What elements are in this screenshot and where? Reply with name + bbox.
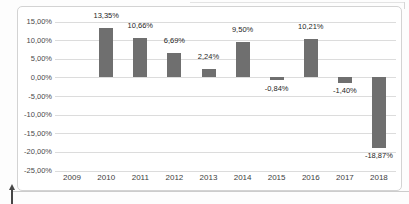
x-axis-label: 2015 — [260, 173, 294, 183]
text-cursor-mark — [11, 189, 13, 204]
x-axis-label: 2012 — [157, 173, 191, 183]
x-axis-label: 2011 — [123, 173, 157, 183]
bar — [372, 77, 386, 147]
y-axis-label: -25,00% — [14, 166, 52, 175]
gridline — [55, 115, 396, 116]
bar — [338, 77, 352, 82]
data-label: 6,69% — [150, 37, 198, 45]
data-label: 10,21% — [287, 23, 335, 31]
data-label: -0,84% — [253, 85, 301, 93]
gridline — [55, 96, 396, 97]
x-axis-label: 2010 — [89, 173, 123, 183]
data-label: 10,66% — [116, 22, 164, 30]
bar — [270, 77, 284, 80]
x-axis-label: 2016 — [294, 173, 328, 183]
document-canvas: 15,00%10,00%5,00%0,00%-5,00%-10,00%-15,0… — [0, 0, 409, 204]
bar — [99, 28, 113, 78]
y-axis-label: 15,00% — [14, 17, 52, 26]
data-label: -1,40% — [321, 87, 369, 95]
bar — [167, 53, 181, 78]
gridline — [55, 133, 396, 134]
y-axis-label: -15,00% — [14, 129, 52, 138]
y-axis-label: -10,00% — [14, 110, 52, 119]
bar — [133, 38, 147, 78]
cursor-arrowhead-icon — [9, 184, 15, 190]
data-label: 13,35% — [82, 12, 130, 20]
y-axis-label: 10,00% — [14, 36, 52, 45]
x-axis-label: 2018 — [362, 173, 396, 183]
y-axis-label: 0,00% — [14, 73, 52, 82]
gridline — [55, 22, 396, 23]
y-axis-label: 5,00% — [14, 54, 52, 63]
gridline — [55, 152, 396, 153]
x-axis-label: 2014 — [226, 173, 260, 183]
y-axis-label: -5,00% — [14, 92, 52, 101]
y-axis-label: -20,00% — [14, 147, 52, 156]
gridline — [55, 171, 396, 172]
plot-area: 15,00%10,00%5,00%0,00%-5,00%-10,00%-15,0… — [0, 0, 409, 204]
x-axis-label: 2013 — [192, 173, 226, 183]
data-label: -18,87% — [355, 152, 403, 160]
data-label: 9,50% — [219, 26, 267, 34]
bar — [304, 39, 318, 77]
bar — [236, 42, 250, 77]
document-rule-line — [11, 191, 409, 192]
x-axis-label: 2009 — [55, 173, 89, 183]
x-axis-label: 2017 — [328, 173, 362, 183]
data-label: 2,24% — [185, 53, 233, 61]
bar — [202, 69, 216, 77]
